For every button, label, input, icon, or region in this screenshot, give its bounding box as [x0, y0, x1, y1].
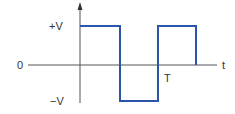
- square-wave-chart: +V 0 −V t T: [0, 0, 235, 114]
- t-axis-label: t: [222, 59, 225, 71]
- period-label: T: [164, 72, 171, 84]
- plus-v-label: +V: [49, 20, 63, 32]
- minus-v-label: −V: [50, 95, 64, 107]
- zero-label: 0: [17, 59, 23, 71]
- y-axis-arrow-icon: [78, 2, 83, 10]
- square-wave-line: [80, 26, 196, 101]
